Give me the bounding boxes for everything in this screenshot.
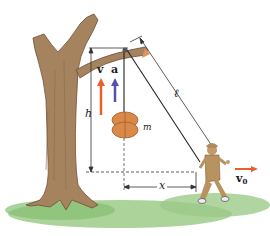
label-acceleration: a: [111, 64, 118, 75]
label-height: h: [85, 108, 92, 119]
label-mass: m: [143, 123, 152, 132]
acceleration-arrow: [111, 78, 119, 102]
pulley-diagram: [0, 0, 270, 236]
rope: [124, 50, 200, 162]
velocity-arrow: [97, 78, 105, 115]
box-mass-m: [112, 112, 138, 138]
label-x: x: [157, 180, 167, 191]
label-rope-length: ℓ: [174, 88, 179, 99]
v0-subscript: 0: [242, 177, 247, 186]
label-velocity: v: [97, 64, 103, 75]
label-boy-velocity: v0: [236, 173, 247, 185]
pulley: [123, 48, 128, 53]
